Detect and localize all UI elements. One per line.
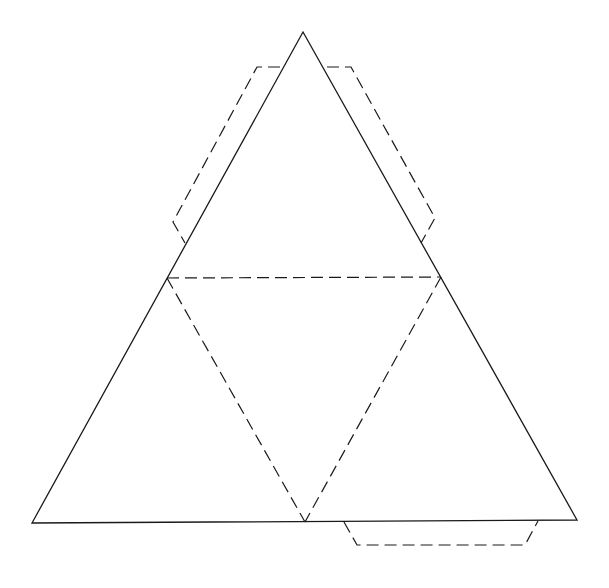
fold-line-right-diagonal [305, 277, 441, 522]
fold-line-left-diagonal [167, 278, 305, 522]
fold-line-horizontal [167, 277, 441, 278]
glue-tab-right [327, 67, 435, 243]
glue-tab-left [173, 67, 280, 243]
tetrahedron-net-diagram [0, 0, 609, 588]
glue-tab-bottom [344, 521, 538, 545]
